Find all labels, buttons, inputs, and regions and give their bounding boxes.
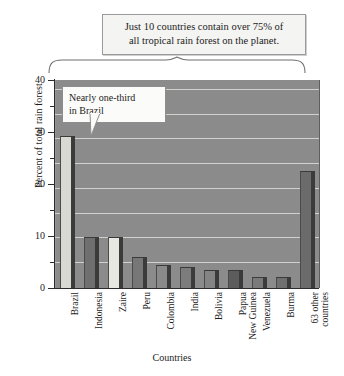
x-label-india: India — [191, 292, 201, 312]
bar-side-shadow — [191, 268, 195, 288]
x-label-indonesia: Indonesia — [95, 292, 105, 329]
x-label-zaire: Zaire — [119, 292, 129, 312]
x-label-line-1: Peru — [142, 292, 152, 309]
brazil-annotation-callout: Nearly one-third in Brazil — [62, 86, 166, 123]
bar-side-shadow — [143, 258, 147, 288]
bar-side-shadow — [263, 278, 267, 288]
x-label-line-2: countries — [321, 292, 331, 327]
bar-63-other-countries — [300, 172, 314, 288]
x-label-papua-new-guinea: PapuaNew Guinea — [239, 292, 259, 340]
bar-side-shadow — [239, 271, 243, 288]
y-tick-20 — [48, 184, 54, 185]
x-label-bolivia: Bolivia — [215, 292, 225, 320]
bar-side-shadow — [287, 278, 291, 288]
y-tick-0 — [48, 288, 54, 289]
bar-bolivia — [204, 271, 218, 288]
bar-side-shadow — [215, 271, 219, 288]
x-label-line-1: Bolivia — [214, 292, 224, 320]
x-label-63-other-countries: 63 othercountries — [311, 292, 331, 327]
top-curly-brace-icon — [48, 56, 306, 74]
bar-india — [180, 268, 194, 288]
x-label-line-1: Venezuela — [262, 292, 272, 331]
bar-side-shadow — [311, 172, 315, 288]
title-line-1: Just 10 countries contain over 75% of — [111, 20, 297, 34]
y-tick-30 — [48, 132, 54, 133]
bar-brazil — [60, 137, 74, 288]
annotation-pointer-icon — [88, 113, 114, 137]
x-label-line-1: Colombia — [166, 292, 176, 329]
bar-venezuela — [252, 278, 266, 288]
x-label-burma: Burma — [287, 292, 297, 318]
bar-zaire — [108, 238, 122, 288]
bar-papua-new-guinea — [228, 271, 242, 288]
bar-peru — [132, 258, 146, 288]
y-tick-35 — [50, 106, 54, 107]
title-callout-box: Just 10 countries contain over 75% of al… — [102, 14, 306, 55]
x-label-colombia: Colombia — [167, 292, 177, 329]
y-tick-label-10: 10 — [23, 230, 45, 241]
y-tick-15 — [50, 210, 54, 211]
y-tick-10 — [48, 236, 54, 237]
x-label-line-1: Zaire — [118, 292, 128, 312]
y-tick-40 — [48, 80, 54, 81]
annotation-line-1: Nearly one-third — [69, 92, 135, 103]
x-label-brazil: Brazil — [71, 292, 81, 315]
bar-colombia — [156, 266, 170, 288]
x-axis-title: Countries — [0, 352, 344, 363]
x-label-line-1: Burma — [286, 292, 296, 318]
y-tick-25 — [50, 158, 54, 159]
y-tick-label-0: 0 — [23, 282, 45, 293]
bar-burma — [276, 278, 290, 288]
x-label-line-2: New Guinea — [249, 292, 259, 340]
bar-side-shadow — [71, 137, 75, 288]
bar-side-shadow — [95, 238, 99, 288]
x-axis-line — [54, 288, 319, 289]
chart-figure: Just 10 countries contain over 75% of al… — [0, 0, 344, 376]
x-label-peru: Peru — [143, 292, 153, 309]
bar-side-shadow — [119, 238, 123, 288]
bar-indonesia — [84, 238, 98, 288]
x-label-line-1: Brazil — [70, 292, 80, 315]
x-label-line-1: 63 other — [310, 292, 320, 323]
x-label-venezuela: Venezuela — [263, 292, 273, 331]
title-line-2: all tropical rain forest on the planet. — [111, 34, 297, 48]
y-tick-5 — [50, 262, 54, 263]
x-label-line-1: Indonesia — [94, 292, 104, 329]
x-label-line-1: India — [190, 292, 200, 312]
bar-side-shadow — [167, 266, 171, 288]
x-label-line-1: Papua — [238, 292, 248, 315]
y-axis-title: Percent of total rain forest — [33, 56, 44, 216]
